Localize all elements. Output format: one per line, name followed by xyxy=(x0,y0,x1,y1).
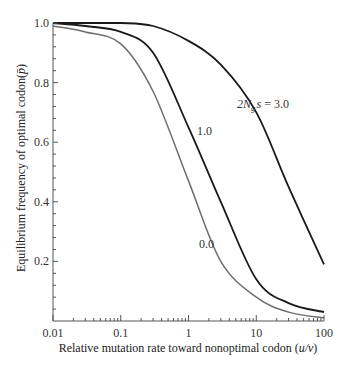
y-tick-label: 0.4 xyxy=(34,195,49,209)
x-tick-label: 10 xyxy=(250,326,262,340)
line-chart: 0.20.40.60.81.0 0.010.1110100 2Ngs = 3.0… xyxy=(0,0,349,367)
y-tick-label: 0.6 xyxy=(34,135,49,149)
y-tick-label: 0.8 xyxy=(34,76,49,90)
x-axis-label: Relative mutation rate toward nonoptimal… xyxy=(59,341,318,355)
curves xyxy=(53,23,324,318)
x-tick-label: 0.01 xyxy=(43,326,64,340)
x-tick-label: 0.1 xyxy=(113,326,128,340)
y-tick-label: 1.0 xyxy=(34,16,49,30)
axes xyxy=(53,23,324,321)
series-line-1 xyxy=(53,23,324,312)
curve-label-1: 1.0 xyxy=(197,124,212,138)
x-ticks: 0.010.1110100 xyxy=(43,315,334,340)
y-ticks: 0.20.40.60.81.0 xyxy=(34,16,58,309)
curve-label-0: 0.0 xyxy=(199,237,214,251)
y-tick-label: 0.2 xyxy=(34,254,49,268)
series-line-0 xyxy=(53,23,324,264)
x-tick-label: 1 xyxy=(186,326,192,340)
x-tick-label: 100 xyxy=(315,326,333,340)
series-line-2 xyxy=(53,26,324,318)
y-axis-label: Equilibrium frequency of optimal codon(p… xyxy=(14,64,28,272)
curve-label-3: 2Ngs = 3.0 xyxy=(237,97,289,113)
